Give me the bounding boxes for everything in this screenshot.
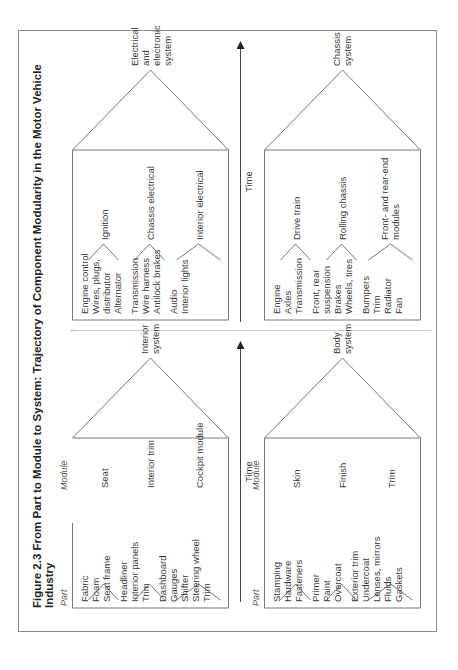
quadrant-chassis: Engine Axles Transmission Front, rear su…: [250, 50, 420, 320]
part-item: Axles: [281, 258, 292, 314]
part-item: Interior lights: [178, 250, 189, 314]
module-drive-train: Drive train: [290, 197, 301, 240]
part-item: Front, rear: [309, 258, 320, 314]
module-front-rear-end: Front- and rear-end modules: [378, 152, 400, 240]
part-item: Wheels, tires: [342, 258, 353, 314]
chassis-electrical-parts: Transmission Wire harness Antilock brake…: [128, 250, 161, 314]
part-item: distributor: [100, 250, 111, 314]
part-item: Transmission: [128, 250, 139, 314]
front-rear-end-parts: Bumpers Trim Radiator Fan: [359, 258, 403, 314]
electrical-parts-list: Engine control Wires, plugs, distributor…: [78, 250, 195, 314]
part-item: Brakes: [331, 258, 342, 314]
part-item: Bumpers: [359, 258, 370, 314]
part-item: Engine control: [78, 250, 89, 314]
part-item: Audio: [167, 250, 178, 314]
quadrant-electrical: Engine control Wires, plugs, distributor…: [58, 50, 228, 320]
system-label-line: system: [161, 25, 172, 66]
interior-electrical-parts: Audio Interior lights: [167, 250, 189, 314]
part-item: suspension: [320, 258, 331, 314]
drive-train-parts: Engine Axles Transmission: [270, 258, 303, 314]
system-electrical: Electrical and electronic system: [128, 25, 172, 66]
system-chassis: Chassis system: [330, 32, 352, 66]
figure-rotated-canvas: Figure 2.3 From Part to Module to System…: [18, 30, 437, 632]
ignition-parts: Engine control Wires, plugs, distributor…: [78, 250, 122, 314]
module-ignition: Ignition: [98, 209, 109, 240]
part-item: Trim: [370, 258, 381, 314]
part-item: Wires, plugs,: [89, 250, 100, 314]
module-interior-electrical: Interior electrical: [193, 170, 204, 240]
chassis-parts-list: Engine Axles Transmission Front, rear su…: [270, 258, 409, 314]
part-item: Alternator: [111, 250, 122, 314]
system-label-line: and: [139, 25, 150, 66]
system-label-line: system: [341, 32, 352, 66]
system-label-line: Chassis: [330, 32, 341, 66]
module-chassis-electrical: Chassis electrical: [144, 166, 155, 240]
figure-frame: Figure 2.3 From Part to Module to System…: [18, 30, 437, 632]
module-rolling-chassis: Rolling chassis: [336, 177, 347, 240]
part-item: Wire harness: [139, 250, 150, 314]
system-label-line: Electrical: [128, 25, 139, 66]
part-item: Transmission: [292, 258, 303, 314]
part-item: Engine: [270, 258, 281, 314]
part-item: Radiator: [381, 258, 392, 314]
part-item: Antilock brakes: [150, 250, 161, 314]
part-item: Fan: [392, 258, 403, 314]
system-label-line: electronic: [150, 25, 161, 66]
time-axis-label-left: Time: [242, 461, 253, 482]
rolling-chassis-parts: Front, rear suspension Brakes Wheels, ti…: [309, 258, 353, 314]
